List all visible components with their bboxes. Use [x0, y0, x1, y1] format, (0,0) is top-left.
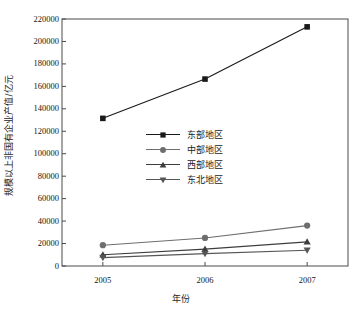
- data-point-marker: [160, 147, 166, 153]
- legend-label: 东北地区: [180, 173, 223, 186]
- legend-key: [146, 158, 180, 172]
- legend-label: 西部地区: [180, 158, 223, 171]
- x-tick-label: 2007: [282, 275, 332, 285]
- legend-key: [146, 128, 180, 142]
- legend-marker-triangle-down-icon: [155, 173, 171, 187]
- data-point-marker: [160, 161, 167, 167]
- legend-item: 东北地区: [146, 172, 250, 187]
- legend-item: 西部地区: [146, 157, 250, 172]
- legend-marker-triangle-up-icon: [155, 158, 171, 172]
- legend-marker-square-icon: [155, 128, 171, 142]
- legend-label: 东部地区: [180, 128, 223, 141]
- data-point-marker: [160, 177, 167, 183]
- chart-figure: 规模以上非国有企业产值/亿元 0200004000060000800001000…: [0, 0, 362, 321]
- legend-key: [146, 173, 180, 187]
- legend-label: 中部地区: [180, 143, 223, 156]
- x-axis-title: 年份: [0, 292, 362, 305]
- x-tick-label: 2005: [78, 275, 128, 285]
- legend-key: [146, 143, 180, 157]
- legend-marker-circle-icon: [155, 143, 171, 157]
- legend-item: 中部地区: [146, 142, 250, 157]
- legend-item: 东部地区: [146, 127, 250, 142]
- chart-legend: 东部地区中部地区西部地区东北地区: [146, 127, 250, 187]
- x-tick-label: 2006: [180, 275, 230, 285]
- data-point-marker: [160, 132, 165, 137]
